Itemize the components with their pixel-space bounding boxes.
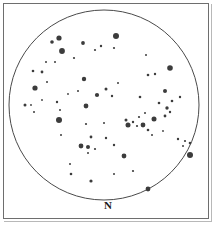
- star-marker: [105, 88, 108, 91]
- star-marker: [41, 71, 44, 74]
- star-marker: [56, 101, 58, 103]
- star-marker: [163, 89, 167, 93]
- star-marker: [100, 45, 102, 47]
- star-marker: [171, 100, 174, 103]
- star-marker: [158, 102, 161, 105]
- star-marker: [105, 137, 107, 139]
- star-marker: [113, 144, 115, 146]
- star-marker: [117, 82, 119, 84]
- star-marker: [69, 163, 71, 165]
- star-marker: [164, 115, 167, 118]
- star-marker: [90, 136, 93, 139]
- star-marker: [73, 57, 75, 59]
- star-marker: [45, 61, 47, 63]
- field-of-view-circle: [9, 10, 199, 200]
- star-marker: [56, 117, 62, 123]
- sky-field: [0, 0, 216, 228]
- star-marker: [32, 85, 37, 90]
- star-marker: [113, 33, 119, 39]
- star-marker: [132, 170, 134, 172]
- star-marker: [132, 121, 134, 123]
- star-marker: [179, 96, 181, 98]
- star-marker: [41, 99, 43, 101]
- star-marker: [33, 111, 35, 113]
- star-marker: [189, 142, 192, 145]
- star-marker: [56, 35, 61, 40]
- star-marker: [113, 47, 115, 49]
- star-marker: [60, 134, 62, 136]
- star-marker: [82, 77, 86, 81]
- star-chart: N: [0, 0, 216, 228]
- star-marker: [79, 144, 84, 149]
- star-marker: [81, 41, 85, 45]
- star-marker: [111, 95, 113, 97]
- star-marker: [32, 70, 35, 73]
- star-marker: [138, 116, 140, 118]
- star-marker: [187, 152, 193, 158]
- star-marker: [94, 49, 96, 51]
- star-marker: [30, 104, 32, 106]
- star-marker: [165, 106, 168, 109]
- star-marker: [87, 152, 89, 154]
- star-marker: [125, 119, 128, 122]
- star-marker: [59, 48, 65, 54]
- star-marker: [86, 145, 90, 149]
- star-marker: [113, 173, 115, 175]
- star-marker: [70, 173, 73, 176]
- star-marker: [122, 154, 127, 159]
- star-marker: [95, 93, 99, 97]
- star-marker: [50, 40, 54, 44]
- star-marker: [67, 93, 69, 95]
- star-marker: [151, 134, 153, 136]
- star-marker: [145, 54, 147, 56]
- star-marker: [162, 130, 164, 132]
- star-marker: [139, 96, 142, 99]
- star-marker: [169, 111, 171, 113]
- star-marker: [154, 73, 156, 75]
- star-marker: [146, 187, 151, 192]
- star-marker: [184, 140, 186, 142]
- star-marker: [147, 74, 150, 77]
- star-marker: [182, 145, 184, 147]
- star-marker: [85, 123, 87, 125]
- star-marker: [177, 138, 179, 140]
- star-marker: [141, 123, 146, 128]
- star-marker: [147, 129, 150, 132]
- star-marker: [126, 123, 131, 128]
- star-marker: [94, 148, 96, 150]
- star-marker: [103, 122, 105, 124]
- star-marker: [84, 104, 89, 109]
- star-marker: [77, 90, 79, 92]
- star-marker: [167, 65, 173, 71]
- star-marker: [59, 109, 61, 111]
- star-marker: [144, 112, 146, 114]
- star-marker: [136, 125, 138, 127]
- star-marker: [46, 81, 48, 83]
- star-marker: [89, 179, 92, 182]
- star-marker: [24, 104, 27, 107]
- north-label: N: [0, 199, 216, 211]
- star-marker: [152, 117, 157, 122]
- star-marker: [54, 61, 56, 63]
